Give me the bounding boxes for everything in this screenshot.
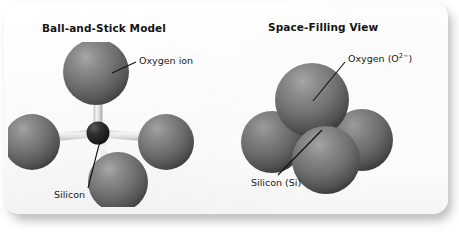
oxygen-sphere-bottom	[88, 152, 148, 207]
label-oxygen-o2: Oxygen (O2−)	[348, 53, 412, 64]
figure-root: Ball-and-Stick Model	[0, 0, 459, 240]
ball-and-stick-diagram	[8, 42, 208, 207]
label-oxygen-ion: Oxygen ion	[139, 55, 193, 66]
silicon-center-sphere	[87, 122, 110, 145]
oxygen-sphere-front-bottom	[292, 126, 360, 194]
panel-title-space-filling: Space-Filling View	[268, 21, 378, 33]
label-oxygen-o2-suffix: )	[409, 53, 413, 64]
oxygen-sphere-right	[138, 114, 194, 170]
oxygen-sphere-left	[8, 114, 60, 170]
panel-title-ball-and-stick: Ball-and-Stick Model	[42, 22, 166, 34]
label-silicon-si: Silicon (Si)	[251, 177, 301, 188]
label-oxygen-o2-charge: 2−	[399, 52, 409, 60]
label-oxygen-o2-prefix: Oxygen (O	[348, 53, 399, 64]
oxygen-sphere-top	[63, 42, 129, 105]
oxygen-sphere-top	[275, 63, 349, 137]
label-silicon: Silicon	[54, 189, 85, 200]
